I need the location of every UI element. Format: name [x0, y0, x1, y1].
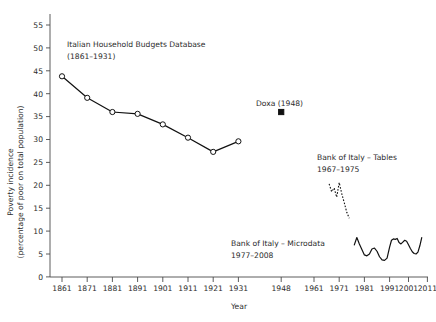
- x-tick-label: 2011: [418, 284, 436, 293]
- y-tick-label: 25: [33, 158, 43, 167]
- series-doxa: [279, 109, 284, 114]
- x-tick-label: 1981: [355, 284, 374, 293]
- x-axis-tick-labels: 1861 1871 1881 1891 1901 1911 1921 1931 …: [52, 284, 436, 293]
- x-tick-label: 1971: [330, 284, 349, 293]
- x-tick-label: 2001: [399, 284, 418, 293]
- series-3-line: [329, 183, 349, 219]
- y-tick-label: 0: [38, 273, 43, 282]
- annotation-doxa: Doxa (1948): [256, 99, 303, 108]
- ann-doxa-line1: Doxa (1948): [256, 99, 303, 108]
- x-tick-label: 1991: [380, 284, 399, 293]
- x-axis-ticks: [62, 277, 427, 282]
- data-point-marker: [211, 149, 216, 154]
- y-axis-title: Poverty incidence (percentage of poor on…: [6, 105, 25, 258]
- ann-boi-micro-line2: 1977–2008: [231, 251, 274, 260]
- y-axis-title-line2: (percentage of poor on total population): [16, 105, 25, 258]
- y-tick-label: 40: [33, 90, 43, 99]
- data-point-marker: [85, 95, 90, 100]
- series-1-markers: [59, 74, 241, 155]
- ann-ihbd-line1: Italian Household Budgets Database: [67, 40, 206, 49]
- x-tick-label: 1948: [272, 284, 291, 293]
- ann-boi-tables-line2: 1967–1975: [317, 165, 360, 174]
- doxa-data-point-marker: [279, 109, 284, 114]
- annotation-bank-of-italy-microdata: Bank of Italy – Microdata 1977–2008: [231, 239, 325, 260]
- series-italian-household-budgets-database: [59, 74, 241, 155]
- y-tick-label: 30: [33, 135, 43, 144]
- y-tick-label: 35: [33, 112, 43, 121]
- y-axis-title-line1: Poverty incidence: [6, 148, 15, 216]
- x-tick-label: 1881: [103, 284, 122, 293]
- y-tick-label: 45: [33, 67, 43, 76]
- y-tick-label: 10: [33, 227, 43, 236]
- series-2-markers: [279, 109, 284, 114]
- data-point-marker: [185, 135, 190, 140]
- x-tick-label: 1871: [78, 284, 97, 293]
- data-point-marker: [236, 139, 241, 144]
- chart-figure: 55 50 45 40 35 30 25 20 15 10 5 0 Povert…: [0, 0, 436, 322]
- series-4-line: [354, 238, 421, 261]
- y-tick-label: 50: [33, 44, 43, 53]
- ann-boi-micro-line1: Bank of Italy – Microdata: [231, 239, 325, 248]
- x-tick-label: 1911: [178, 284, 197, 293]
- x-tick-label: 1931: [229, 284, 248, 293]
- y-axis-ticks: [46, 25, 50, 277]
- series-1-line: [62, 76, 238, 152]
- data-point-marker: [135, 111, 140, 116]
- x-axis-title: Year: [230, 302, 248, 311]
- data-point-marker: [160, 122, 165, 127]
- y-tick-label: 15: [33, 204, 43, 213]
- x-tick-label: 1901: [153, 284, 172, 293]
- x-tick-label: 1891: [128, 284, 147, 293]
- data-point-marker: [59, 74, 64, 79]
- annotation-italian-household-budgets-database: Italian Household Budgets Database (1861…: [67, 40, 206, 61]
- annotation-bank-of-italy-tables: Bank of Italy – Tables 1967–1975: [317, 153, 397, 174]
- data-point-marker: [110, 109, 115, 114]
- x-tick-label: 1921: [204, 284, 223, 293]
- x-tick-label: 1861: [52, 284, 71, 293]
- ann-ihbd-line2: (1861–1931): [67, 52, 115, 61]
- y-tick-label: 5: [38, 250, 43, 259]
- series-bank-of-italy-tables: [329, 183, 349, 219]
- poverty-incidence-chart: 55 50 45 40 35 30 25 20 15 10 5 0 Povert…: [0, 0, 436, 322]
- series-bank-of-italy-microdata: [354, 238, 421, 261]
- x-tick-label: 1961: [304, 284, 323, 293]
- y-axis-tick-labels: 55 50 45 40 35 30 25 20 15 10 5 0: [33, 21, 43, 282]
- y-tick-label: 20: [33, 181, 43, 190]
- ann-boi-tables-line1: Bank of Italy – Tables: [317, 153, 397, 162]
- y-tick-label: 55: [33, 21, 43, 30]
